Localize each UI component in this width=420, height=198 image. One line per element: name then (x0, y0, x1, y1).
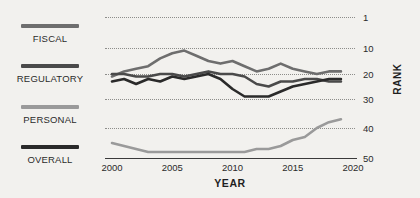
legend-item-regulatory: REGULATORY (0, 64, 100, 84)
legend-label-regulatory: REGULATORY (0, 73, 100, 84)
legend-label-personal: PERSONAL (0, 114, 100, 125)
legend-label-fiscal: FISCAL (0, 33, 100, 44)
legend-swatch-overall (21, 145, 79, 149)
legend-swatch-personal (21, 105, 79, 109)
x-axis-title: YEAR (214, 177, 246, 189)
y-tick-label-50: 50 (363, 153, 374, 164)
legend-item-fiscal: FISCAL (0, 24, 100, 44)
plot-area: 11020304050 20002005201020152020 YEAR RA… (105, 0, 355, 198)
series-line-personal (112, 119, 341, 152)
y-tick-label-30: 30 (363, 94, 374, 105)
legend-swatch-fiscal (21, 24, 79, 28)
y-tick-label-40: 40 (363, 123, 374, 134)
x-tick-label-2015: 2015 (282, 162, 303, 173)
legend-swatch-regulatory (21, 64, 79, 68)
y-axis-title: RANK (392, 63, 403, 94)
x-tick-label-2005: 2005 (162, 162, 183, 173)
y-tick-label-1: 1 (363, 12, 368, 23)
legend-label-overall: OVERALL (0, 154, 100, 165)
x-tick-label-2010: 2010 (222, 162, 243, 173)
legend-item-overall: OVERALL (0, 145, 100, 165)
x-tick-label-2000: 2000 (101, 162, 122, 173)
x-tick-label-2020: 2020 (342, 162, 363, 173)
y-tick-label-20: 20 (363, 69, 374, 80)
series-line-fiscal (112, 51, 341, 77)
legend-item-personal: PERSONAL (0, 105, 100, 125)
chart-legend: FISCAL REGULATORY PERSONAL OVERALL (0, 0, 100, 198)
chart-figure: FISCAL REGULATORY PERSONAL OVERALL 11020… (0, 0, 420, 198)
y-tick-label-10: 10 (363, 43, 374, 54)
